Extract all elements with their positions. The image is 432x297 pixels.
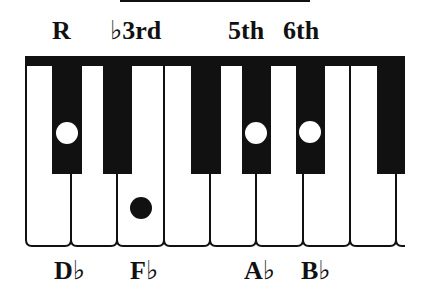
keyboard-graphic bbox=[0, 0, 432, 297]
black-key bbox=[296, 56, 325, 174]
note-marker-dot-icon bbox=[245, 122, 267, 144]
black-key bbox=[103, 56, 132, 174]
black-key bbox=[242, 56, 271, 174]
black-key bbox=[52, 56, 82, 174]
note-marker-dot-icon bbox=[56, 122, 78, 144]
piano-keyboard bbox=[0, 0, 432, 297]
note-marker-dot-icon bbox=[130, 197, 152, 219]
note-label-b-flat: B♭ bbox=[301, 258, 331, 284]
black-key bbox=[191, 56, 221, 174]
note-label-f-flat: F♭ bbox=[130, 258, 158, 284]
black-key bbox=[377, 56, 405, 174]
note-label-d-flat: D♭ bbox=[54, 258, 85, 284]
note-marker-dot-icon bbox=[299, 121, 321, 143]
note-label-a-flat: A♭ bbox=[244, 258, 275, 284]
